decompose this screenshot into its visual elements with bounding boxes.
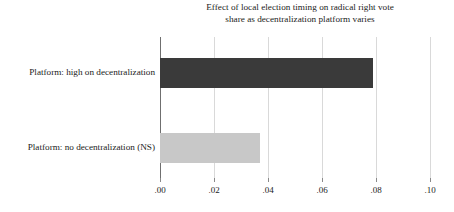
tick-label-006: .06 [302, 185, 342, 195]
tick-mark-004 [268, 178, 269, 182]
tick-mark-002 [214, 178, 215, 182]
tick-mark-006 [322, 178, 323, 182]
value-axis: .00 .02 .04 .06 .08 .10 [0, 0, 454, 212]
tick-mark-000 [160, 178, 161, 182]
tick-mark-008 [376, 178, 377, 182]
tick-label-004: .04 [248, 185, 288, 195]
bar-chart: Effect of local election timing on radic… [0, 0, 454, 212]
tick-label-000: .00 [140, 185, 180, 195]
tick-label-008: .08 [356, 185, 396, 195]
tick-mark-010 [430, 178, 431, 182]
tick-label-010: .10 [410, 185, 450, 195]
tick-label-002: .02 [194, 185, 234, 195]
